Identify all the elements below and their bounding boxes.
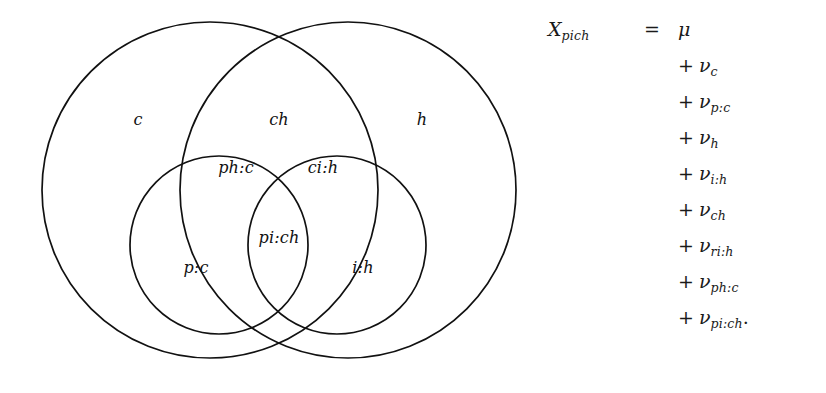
equation-row-nu-pi-ch: +νpi:ch.: [548, 306, 818, 342]
equation-block: Xpich = μ +νc +νp:c +νh +νi:h +νc: [548, 18, 818, 342]
venn-region-label-h: h: [417, 112, 428, 128]
equation-row-nu-i-h: +νi:h: [548, 162, 818, 198]
equation-row-nu-h: +νh: [548, 126, 818, 162]
equation-row-nu-ch: +νch: [548, 198, 818, 234]
venn-region-label-ci-h: ci:h: [308, 160, 339, 176]
figure-venn-and-equation: c ch h ph:c ci:h pi:ch p:c i:h Xpich = μ…: [0, 0, 826, 393]
equation-term-nu-h: +νh: [678, 126, 719, 151]
venn-region-label-i-h: i:h: [352, 260, 373, 276]
equation-lhs-subscript: pich: [562, 28, 590, 43]
equation-term-nu-p-c: +νp:c: [678, 90, 730, 115]
equation-term-nu-ri-h: +νri:h: [678, 234, 734, 259]
equation-term-nu-c: +νc: [678, 54, 718, 79]
equation-row-nu-c: +νc: [548, 54, 818, 90]
venn-diagram: [0, 0, 520, 393]
venn-region-label-p-c: p:c: [183, 260, 208, 276]
equation-term-mu: μ: [678, 18, 690, 40]
equation-lhs: Xpich: [548, 18, 644, 43]
equation-row-nu-ph-c: +νph:c: [548, 270, 818, 306]
equation-row-nu-ri-h: +νri:h: [548, 234, 818, 270]
venn-region-label-c: c: [133, 112, 142, 128]
equation-term-nu-pi-ch: +νpi:ch.: [678, 306, 749, 331]
equation-operator: =: [644, 18, 678, 40]
venn-region-label-pi-ch: pi:ch: [258, 230, 299, 246]
equation-trailing-period: .: [743, 306, 749, 328]
equation-row-mu: Xpich = μ: [548, 18, 818, 54]
venn-region-label-ph-c: ph:c: [218, 160, 254, 176]
equation-term-nu-i-h: +νi:h: [678, 162, 727, 187]
equation-term-nu-ph-c: +νph:c: [678, 270, 739, 295]
venn-region-label-ch: ch: [269, 112, 289, 128]
equation-row-nu-p-c: +νp:c: [548, 90, 818, 126]
equation-term-nu-ch: +νch: [678, 198, 726, 223]
venn-circle-c: [42, 22, 378, 358]
venn-circle-h: [180, 22, 516, 358]
